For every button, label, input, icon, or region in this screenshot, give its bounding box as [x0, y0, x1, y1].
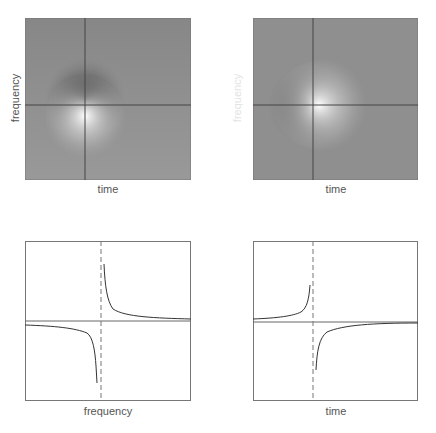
- heatmap-top-left-plot: [25, 18, 191, 180]
- line-plot-bottom-left: [25, 241, 191, 401]
- line-plot-bottom-right: [253, 241, 418, 401]
- x-axis-label-top-left: time: [83, 183, 133, 195]
- y-axis-label-top-left: frequency: [9, 68, 21, 128]
- x-axis-label-bottom-right: time: [311, 405, 361, 417]
- y-axis-label-top-right: frequency: [231, 68, 243, 128]
- line-plot-bottom-left-svg: [25, 241, 191, 401]
- heatmap-panel-top-right: [253, 18, 418, 180]
- x-axis-label-top-right: time: [311, 183, 361, 195]
- line-plot-bottom-right-svg: [253, 241, 418, 401]
- heatmap-top-right-plot: [253, 18, 418, 180]
- x-axis-label-bottom-left: frequency: [73, 405, 143, 417]
- heatmap-panel-top-left: [25, 18, 191, 180]
